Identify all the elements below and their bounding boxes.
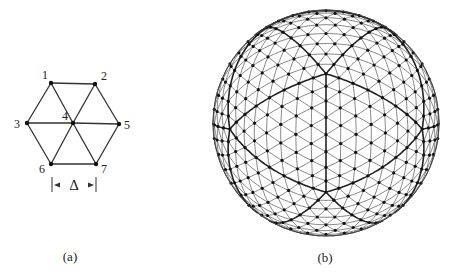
grid-line [258,90,269,98]
grid-node [227,100,230,103]
icosahedron-edge [396,106,407,114]
grid-line [312,92,326,101]
grid-line [356,124,371,134]
grid-node [233,181,236,184]
grid-line [326,135,341,144]
grid-line [424,116,429,128]
grid-line [299,28,308,35]
grid-line [318,200,326,209]
grid-node [266,201,269,204]
grid-line [245,114,255,123]
grid-node [271,80,274,83]
grid-node [265,131,268,134]
grid-node [295,151,298,154]
grid-line [311,117,326,125]
grid-line [267,115,268,133]
grid-line [236,152,237,167]
grid-line [278,190,289,197]
grid-line [273,81,284,90]
grid-line [352,46,358,59]
grid-node [389,34,392,37]
grid-line [289,68,304,74]
grid-node [362,73,365,76]
grid-line [370,143,371,161]
grid-node [428,97,431,100]
grid-line [335,215,352,217]
grid-line [222,114,223,128]
grid-line [255,106,257,123]
grid-node [290,36,293,39]
icosahedron-edge [270,90,285,98]
grid-node [296,97,299,100]
grid-node [252,45,255,48]
grid-node [268,166,271,169]
grid-node [356,57,359,60]
grid-line [326,176,340,181]
grid-line [394,173,404,178]
grid-node [405,161,408,164]
grid-line [236,138,237,152]
grid-line [304,188,313,196]
icosahedron-edge [299,183,313,188]
grid-line [326,217,335,225]
grid-line [390,66,399,73]
grid-node [366,49,369,52]
grid-line [300,44,317,46]
grid-line [326,225,335,231]
grid-line [218,114,222,127]
grid-node [257,88,260,91]
grid-node [253,139,256,142]
grid-line [245,99,246,115]
grid-line [309,208,326,209]
grid-line [326,200,334,209]
grid-line [348,196,358,204]
grid-line [222,128,223,141]
grid-node [343,33,346,36]
grid-line [326,54,334,64]
icosahedron-edge [326,64,334,73]
grid-line [244,131,245,148]
icosahedron-edge [416,129,422,138]
grid-line [311,144,326,152]
grid-line [326,86,340,92]
grid-line [371,115,384,125]
grid-node [271,181,274,184]
grid-line [297,83,299,98]
grid-line [379,81,394,90]
grid-line [353,74,363,83]
grid-node [409,55,412,58]
hexagon-node [93,82,97,86]
icosahedron-edge [270,167,285,176]
grid-line [289,59,294,74]
grid-line [340,161,354,169]
geodesic-sphere-panel: (b) [213,9,440,265]
grid-node [352,26,355,29]
grid-line [370,160,383,167]
grid-node [224,168,227,171]
grid-line [326,144,341,152]
grid-line [339,78,340,92]
arrow-left-icon [54,183,60,188]
grid-line [282,106,296,116]
grid-node [315,229,318,232]
grid-line [262,73,273,81]
grid-line [228,108,235,116]
grid-line [334,64,348,68]
grid-node [281,31,284,34]
grid-line [278,59,294,65]
grid-line [308,34,326,35]
grid-node [228,128,231,131]
grid-node [396,122,399,125]
grid-line [236,152,246,163]
grid-line [222,98,223,114]
grid-node [257,171,260,174]
grid-line [255,115,268,123]
grid-line [394,90,407,99]
grid-line [281,134,296,143]
grid-node [292,57,295,60]
hexagon-edge [27,123,51,164]
grid-line [368,90,370,106]
grid-line [348,59,358,69]
grid-node [310,142,313,145]
grid-node [316,215,319,218]
